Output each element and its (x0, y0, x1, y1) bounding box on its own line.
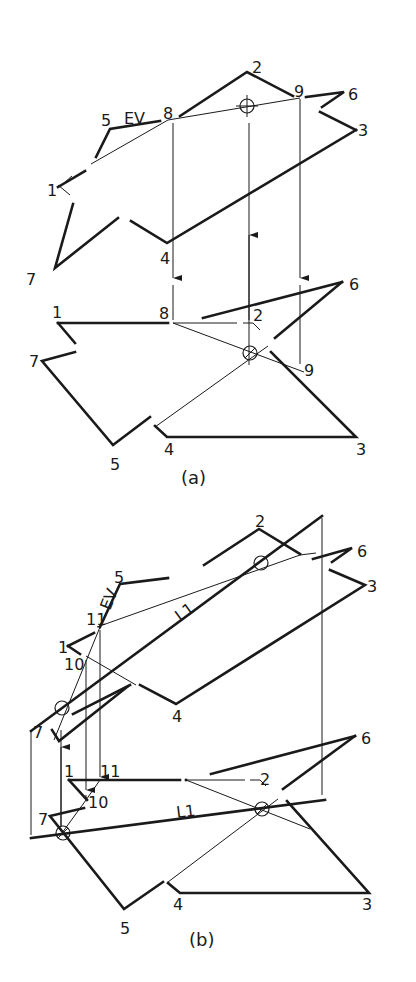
label-a-front-3: 3 (356, 440, 366, 459)
label-a-front-4: 4 (164, 440, 174, 459)
descriptive-geometry-drawing: 5 EV 8 2 9 6 3 1 4 7 1 8 2 6 9 7 5 4 3 (… (0, 0, 416, 982)
line-l1-top (31, 516, 322, 731)
label-b-front-7: 7 (38, 810, 48, 829)
figure-a-top-plane (55, 72, 356, 268)
label-b-top-2: 2 (255, 512, 265, 531)
label-a-top-8: 8 (163, 104, 173, 123)
label-a-top-2: 2 (252, 58, 262, 77)
label-a-top-5: 5 (101, 111, 111, 130)
label-a-front-1: 1 (52, 303, 62, 322)
label-a-front-5: 5 (110, 455, 120, 474)
label-b-top-3: 3 (367, 577, 377, 596)
caption-b: (b) (189, 929, 214, 950)
label-a-top-4: 4 (160, 249, 170, 268)
figure-a-projectors (173, 99, 300, 365)
label-b-top-5: 5 (114, 568, 124, 587)
label-b-front-4: 4 (173, 895, 183, 914)
label-a-front-7: 7 (29, 352, 39, 371)
label-b-top-11: 11 (86, 610, 106, 629)
label-a-top-ev: EV (124, 109, 145, 128)
caption-a: (a) (181, 467, 206, 488)
label-a-top-9: 9 (294, 82, 304, 101)
figure-a-labels: 5 EV 8 2 9 6 3 1 4 7 1 8 2 6 9 7 5 4 3 (… (26, 58, 368, 488)
label-b-front-5: 5 (120, 919, 130, 938)
label-b-front-10: 10 (88, 793, 108, 812)
label-b-front-11: 11 (100, 762, 120, 781)
label-b-front-3: 3 (362, 895, 372, 914)
label-b-front-2: 2 (260, 770, 270, 789)
label-a-front-8: 8 (159, 304, 169, 323)
label-b-top-l1: L1 (171, 599, 198, 626)
label-b-top-4: 4 (172, 707, 182, 726)
figure-b-labels: 2 6 3 5 EV 11 L1 1 10 4 7 1 11 2 6 10 7 … (33, 512, 377, 950)
label-b-front-6: 6 (361, 729, 371, 748)
label-b-front-l1: L1 (175, 801, 196, 822)
figure-b-front-plane (31, 736, 369, 909)
label-b-top-10: 10 (64, 655, 84, 674)
label-b-front-1: 1 (64, 762, 74, 781)
label-a-top-7: 7 (26, 270, 36, 289)
label-b-top-6: 6 (357, 542, 367, 561)
label-a-top-1: 1 (47, 181, 57, 200)
label-a-top-6: 6 (348, 85, 358, 104)
figure-b-top-plane (31, 516, 365, 741)
label-a-top-3: 3 (358, 121, 368, 140)
label-a-front-6: 6 (349, 275, 359, 294)
label-a-front-2: 2 (253, 306, 263, 325)
label-b-top-7: 7 (33, 723, 43, 742)
figure-a: 5 EV 8 2 9 6 3 1 4 7 1 8 2 6 9 7 5 4 3 (… (26, 58, 368, 488)
label-a-front-9: 9 (304, 361, 314, 380)
figure-b: 2 6 3 5 EV 11 L1 1 10 4 7 1 11 2 6 10 7 … (31, 512, 377, 950)
